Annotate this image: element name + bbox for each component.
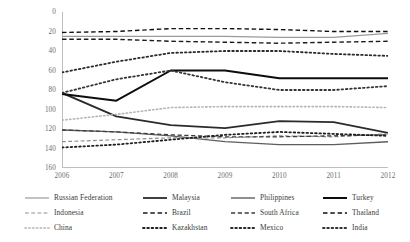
y-axis-labels: 020406080100120140160 — [14, 12, 56, 168]
legend-label: Malaysia — [172, 194, 200, 202]
legend-swatch-dashed-icon — [230, 209, 256, 217]
legend-swatch-solid-icon — [322, 194, 348, 202]
y-tick-label: 120 — [45, 125, 56, 133]
legend-swatch-dotted-icon — [142, 224, 168, 232]
legend-row: IndonesiaBrazilSouth AfricaThailand — [24, 205, 390, 220]
legend-item-malaysia[interactable]: Malaysia — [142, 194, 230, 202]
legend-label: Russian Federation — [54, 194, 113, 202]
legend-item-mexico[interactable]: Mexico — [230, 224, 322, 232]
y-tick-label: 20 — [49, 28, 56, 36]
legend-label: South Africa — [260, 209, 299, 217]
legend-swatch-dashed-icon — [142, 209, 168, 217]
x-tick-label: 2011 — [326, 172, 341, 180]
y-tick-label: 160 — [45, 164, 56, 172]
legend-item-turkey[interactable]: Turkey — [322, 194, 390, 202]
legend-swatch-dotted-icon — [24, 224, 50, 232]
legend-label: Philippines — [260, 194, 294, 202]
x-axis-labels: 2006200720082009201020112012 — [62, 172, 388, 186]
x-tick-label: 2009 — [218, 172, 233, 180]
legend-label: Turkey — [352, 194, 374, 202]
legend-label: Brazil — [172, 209, 191, 217]
legend-item-russian-federation[interactable]: Russian Federation — [24, 194, 142, 202]
series-line-south-africa — [62, 130, 388, 137]
legend-label: China — [54, 224, 72, 232]
legend-item-indonesia[interactable]: Indonesia — [24, 209, 142, 217]
legend-label: Mexico — [260, 224, 283, 232]
y-tick-label: 40 — [49, 47, 56, 55]
legend-row: Russian FederationMalaysiaPhilippinesTur… — [24, 190, 390, 205]
series-line-kazakhstan — [62, 132, 388, 148]
plot-area — [62, 12, 388, 168]
legend-item-china[interactable]: China — [24, 224, 142, 232]
chart-container: 020406080100120140160 200620072008200920… — [0, 0, 410, 242]
legend-swatch-dashed-icon — [322, 209, 348, 217]
x-tick-label: 2012 — [381, 172, 396, 180]
series-line-brazil — [62, 39, 388, 43]
legend-swatch-solid-icon — [230, 194, 256, 202]
x-tick-label: 2007 — [109, 172, 124, 180]
series-line-thailand — [62, 29, 388, 33]
legend-item-philippines[interactable]: Philippines — [230, 194, 322, 202]
legend-item-brazil[interactable]: Brazil — [142, 209, 230, 217]
x-tick-label: 2008 — [163, 172, 178, 180]
legend-item-kazakhstan[interactable]: Kazakhstan — [142, 224, 230, 232]
legend-label: India — [352, 224, 368, 232]
y-tick-label: 60 — [49, 67, 56, 75]
legend-item-thailand[interactable]: Thailand — [322, 209, 390, 217]
legend-swatch-dotted-icon — [230, 224, 256, 232]
legend-item-south-africa[interactable]: South Africa — [230, 209, 322, 217]
series-line-malaysia — [62, 93, 388, 133]
legend-swatch-dashed-icon — [24, 209, 50, 217]
legend-swatch-solid-icon — [24, 194, 50, 202]
legend-swatch-solid-icon — [142, 194, 168, 202]
y-tick-label: 140 — [45, 145, 56, 153]
legend-label: Thailand — [352, 209, 379, 217]
legend-row: ChinaKazakhstanMexicoIndia — [24, 220, 390, 235]
legend-swatch-dotted-icon — [322, 224, 348, 232]
x-tick-label: 2006 — [55, 172, 70, 180]
series-line-turkey — [62, 71, 388, 101]
legend-label: Indonesia — [54, 209, 84, 217]
chart-legend: Russian FederationMalaysiaPhilippinesTur… — [24, 190, 390, 236]
chart-plot-svg — [62, 12, 388, 168]
series-line-mexico — [62, 51, 388, 72]
series-line-russian-federation — [62, 33, 388, 37]
series-line-india — [62, 71, 388, 93]
y-tick-label: 0 — [52, 8, 56, 16]
legend-item-india[interactable]: India — [322, 224, 390, 232]
x-tick-label: 2010 — [272, 172, 287, 180]
legend-label: Kazakhstan — [172, 224, 207, 232]
y-tick-label: 80 — [49, 86, 56, 94]
y-tick-label: 100 — [45, 106, 56, 114]
